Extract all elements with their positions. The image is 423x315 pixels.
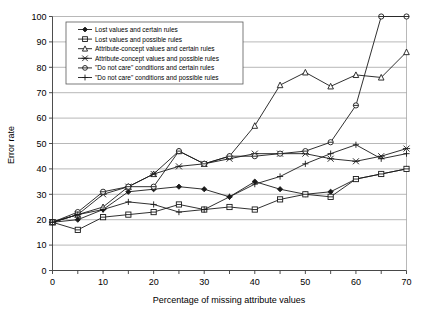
series-marker-open-square <box>83 37 88 42</box>
series-marker-open-square <box>277 197 282 202</box>
y-axis-title: Error rate <box>6 126 16 164</box>
series-marker-open-circle <box>126 184 131 189</box>
x-tick-label: 50 <box>300 277 310 287</box>
series-marker-open-square <box>151 209 156 214</box>
legend-item[interactable]: "Do not care" conditions and possible ru… <box>78 74 219 82</box>
x-tick-label: 70 <box>401 277 411 287</box>
legend-item-label: Lost values and certain rules <box>95 26 178 33</box>
chart-container: 0102030405060708090100 010203040506070 L… <box>0 0 423 315</box>
series-marker-open-circle <box>202 161 207 166</box>
y-tick-label: 40 <box>36 164 46 174</box>
series-marker-open-circle <box>328 140 333 145</box>
y-tick-label: 80 <box>36 63 46 73</box>
y-tick-label: 90 <box>36 37 46 47</box>
series-marker-open-square <box>252 207 257 212</box>
x-tick-label: 0 <box>50 277 55 287</box>
y-tick-label: 30 <box>36 190 46 200</box>
legend-item[interactable]: Attribute-concept values and possible ru… <box>78 55 220 63</box>
legend-item-label: Lost values and possible rules <box>95 36 183 44</box>
legend-item[interactable]: Attribute-concept values and certain rul… <box>78 45 215 53</box>
y-tick-label: 10 <box>36 240 46 250</box>
y-tick-label: 100 <box>31 12 46 22</box>
y-tick-label: 0 <box>41 266 46 276</box>
series-marker-open-circle <box>277 151 282 156</box>
x-tick-label: 10 <box>98 277 108 287</box>
series-marker-open-circle <box>100 189 105 194</box>
y-tick-label: 20 <box>36 215 46 225</box>
series-marker-open-square <box>328 194 333 199</box>
series-marker-open-square <box>176 202 181 207</box>
y-tick-label: 70 <box>36 88 46 98</box>
legend-item-label: Attribute-concept values and certain rul… <box>95 45 215 53</box>
line-chart: 0102030405060708090100 010203040506070 L… <box>0 0 423 315</box>
series-marker-open-square <box>404 166 409 171</box>
legend-item-label: "Do not care" conditions and certain rul… <box>95 64 215 71</box>
legend-item[interactable]: "Do not care" conditions and certain rul… <box>78 64 215 71</box>
x-axis-title: Percentage of missing attribute values <box>153 295 306 305</box>
series-marker-open-square <box>100 215 105 220</box>
legend-item-label: Attribute-concept values and possible ru… <box>95 55 220 63</box>
x-tick-label: 60 <box>351 277 361 287</box>
series-marker-open-circle <box>379 14 384 19</box>
series-marker-open-circle <box>83 66 88 71</box>
series-marker-open-square <box>303 192 308 197</box>
series-marker-open-circle <box>252 154 257 159</box>
series-marker-open-circle <box>353 103 358 108</box>
series-marker-open-circle <box>151 184 156 189</box>
series-marker-open-circle <box>303 149 308 154</box>
series-marker-open-square <box>126 212 131 217</box>
series-marker-open-square <box>353 176 358 181</box>
x-tick-label: 40 <box>250 277 260 287</box>
series-marker-open-square <box>227 204 232 209</box>
chart-legend: Lost values and certain rulesLost values… <box>66 22 243 84</box>
y-tick-label: 60 <box>36 113 46 123</box>
series-marker-open-circle <box>404 14 409 19</box>
x-tick-label: 30 <box>199 277 209 287</box>
y-tick-label: 50 <box>36 139 46 149</box>
legend-item-label: "Do not care" conditions and possible ru… <box>95 74 219 82</box>
series-marker-open-square <box>379 171 384 176</box>
series-marker-open-square <box>75 227 80 232</box>
series-marker-open-circle <box>176 149 181 154</box>
series-marker-open-circle <box>227 154 232 159</box>
x-tick-label: 20 <box>149 277 159 287</box>
